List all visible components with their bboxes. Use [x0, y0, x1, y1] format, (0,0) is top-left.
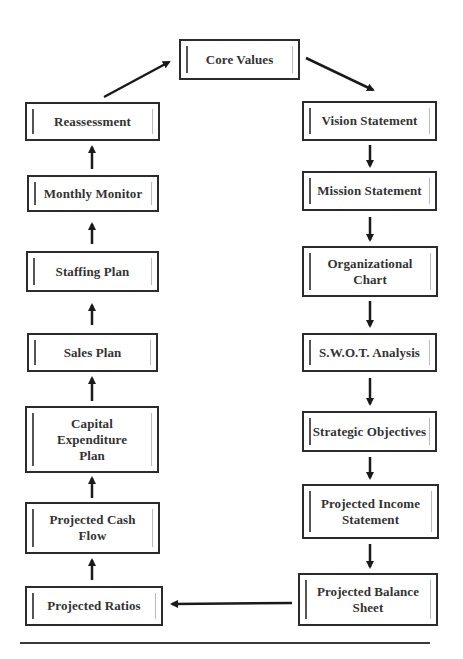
node-vision-statement: Vision Statement [302, 101, 437, 141]
arrow-reassessment-to-core-values [104, 62, 169, 97]
arrow-core-values-to-vision [306, 58, 373, 90]
node-core-values: Core Values [179, 39, 300, 80]
footer-divider [20, 642, 430, 644]
node-projected-cash-flow: Projected Cash Flow [25, 502, 160, 554]
arrow-balance-to-ratios [172, 603, 292, 604]
node-capital-expenditure-plan: Capital Expenditure Plan [25, 406, 159, 473]
node-label: Sales Plan [52, 345, 134, 361]
node-label: Monthly Monitor [38, 186, 149, 202]
node-staffing-plan: Staffing Plan [26, 251, 159, 292]
node-sales-plan: Sales Plan [27, 333, 158, 372]
node-label: Staffing Plan [44, 264, 142, 280]
node-monthly-monitor: Monthly Monitor [27, 175, 159, 212]
node-label: S.W.O.T. Analysis [307, 345, 432, 361]
node-projected-ratios: Projected Ratios [25, 586, 163, 626]
connector-layer [0, 0, 463, 659]
node-mission-statement: Mission Statement [302, 171, 437, 211]
node-label: Projected Cash Flow [27, 512, 158, 544]
node-label: Projected Balance Sheet [300, 584, 436, 616]
node-reassessment: Reassessment [25, 102, 160, 141]
node-organizational-chart: Organizational Chart [302, 246, 438, 297]
node-projected-income-statement: Projected Income Statement [302, 484, 439, 539]
node-label: Organizational Chart [304, 256, 436, 288]
node-label: Vision Statement [309, 113, 429, 129]
node-label: Projected Income Statement [304, 496, 437, 528]
node-projected-balance-sheet: Projected Balance Sheet [298, 573, 438, 626]
node-label: Projected Ratios [35, 598, 152, 614]
node-strategic-objectives: Strategic Objectives [302, 411, 437, 452]
node-label: Mission Statement [305, 183, 434, 199]
node-label: Capital Expenditure Plan [27, 416, 157, 464]
node-label: Core Values [194, 52, 286, 68]
node-label: Strategic Objectives [307, 424, 433, 440]
node-label: Reassessment [42, 114, 143, 130]
node-swot-analysis: S.W.O.T. Analysis [302, 333, 437, 372]
